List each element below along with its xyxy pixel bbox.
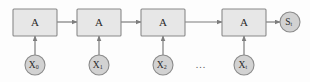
input-nodes: X0X1X2Xt (25, 55, 254, 75)
recurrent-cell-1: A (77, 9, 121, 36)
diagram-canvas: AAAA X0X1X2Xt St ... (0, 0, 310, 82)
cell-label-3: A (240, 16, 248, 28)
cell-label-0: A (31, 16, 39, 28)
input-node-3: Xt (234, 55, 254, 75)
recurrent-cell-0: A (13, 9, 57, 36)
ellipsis-label: ... (196, 59, 207, 70)
recurrent-cell-3: A (222, 9, 266, 36)
input-node-1: X1 (89, 55, 109, 75)
cell-label-2: A (159, 16, 167, 28)
input-node-0: X0 (25, 55, 45, 75)
output-node: St (280, 12, 300, 32)
cell-label-1: A (95, 16, 103, 28)
output-node: St (280, 12, 300, 32)
unrolled-rnn-diagram: AAAA X0X1X2Xt St ... (0, 0, 310, 82)
input-node-2: X2 (153, 55, 173, 75)
recurrent-cell-2: A (141, 9, 185, 36)
ellipsis: ... (196, 59, 207, 70)
